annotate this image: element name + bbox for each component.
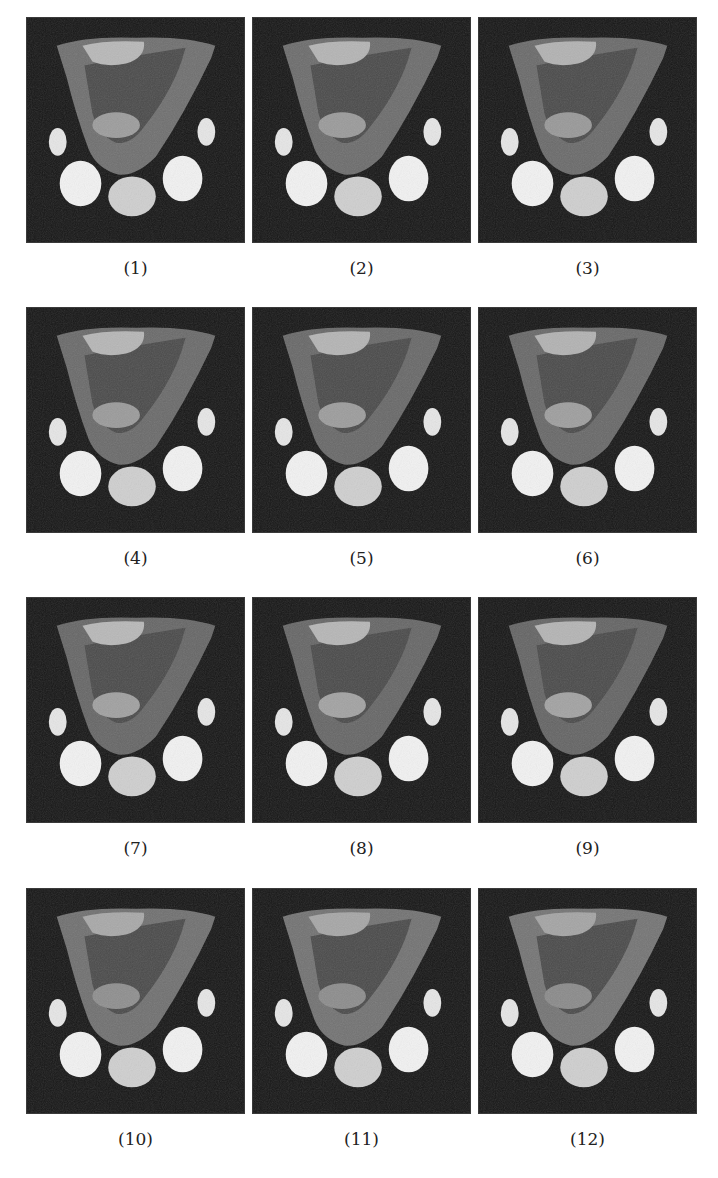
mri-slice-graphic [479, 598, 696, 822]
panel-caption-6: (6) [478, 548, 697, 568]
mri-slice-graphic [479, 308, 696, 532]
mri-image [252, 597, 471, 823]
mri-slice-graphic [27, 308, 244, 532]
panel-caption-3: (3) [478, 258, 697, 278]
mri-image [478, 597, 697, 823]
mri-image [478, 307, 697, 533]
mri-slice-graphic [27, 18, 244, 242]
mri-image [252, 17, 471, 243]
figure-grid: (1) [0, 0, 718, 1178]
panel-caption-1: (1) [26, 258, 245, 278]
mri-slice-graphic [253, 889, 470, 1113]
mri-slice-graphic [253, 18, 470, 242]
mri-slice-graphic [479, 18, 696, 242]
mri-image [252, 888, 471, 1114]
panel-caption-2: (2) [252, 258, 471, 278]
panel-caption-9: (9) [478, 838, 697, 858]
mri-slice-graphic [27, 598, 244, 822]
mri-image [478, 888, 697, 1114]
panel-caption-11: (11) [252, 1129, 471, 1149]
mri-image [26, 597, 245, 823]
panel-caption-5: (5) [252, 548, 471, 568]
panel-caption-10: (10) [26, 1129, 245, 1149]
mri-slice-graphic [27, 889, 244, 1113]
mri-image [26, 17, 245, 243]
panel-caption-7: (7) [26, 838, 245, 858]
mri-image [252, 307, 471, 533]
mri-image [26, 307, 245, 533]
mri-slice-graphic [253, 598, 470, 822]
panel-caption-12: (12) [478, 1129, 697, 1149]
mri-image [26, 888, 245, 1114]
mri-slice-graphic [253, 308, 470, 532]
mri-slice-graphic [479, 889, 696, 1113]
panel-caption-4: (4) [26, 548, 245, 568]
panel-caption-8: (8) [252, 838, 471, 858]
mri-image [478, 17, 697, 243]
